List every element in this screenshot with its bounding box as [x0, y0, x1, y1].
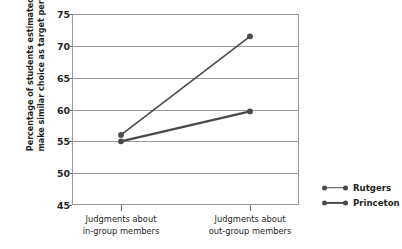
chart-legend: Rutgers Princeton: [322, 180, 400, 210]
x-tick-label-in-group-line-2: in-group members: [56, 226, 186, 238]
x-tick-label-in-group: Judgments about in-group members: [56, 214, 186, 237]
series-layer: [0, 0, 402, 249]
data-point-princeton-1: [247, 109, 253, 115]
x-tick-label-in-group-line-1: Judgments about: [56, 214, 186, 226]
x-tick-label-out-group: Judgments about out-group members: [185, 214, 315, 237]
legend-item-princeton[interactable]: Princeton: [322, 195, 400, 210]
legend-label-princeton: Princeton: [353, 198, 400, 208]
data-point-princeton-0: [118, 138, 124, 144]
x-tick-label-out-group-line-2: out-group members: [185, 226, 315, 238]
x-tick-label-out-group-line-1: Judgments about: [185, 214, 315, 226]
series-line-rutgers: [121, 36, 250, 135]
series-line-princeton: [121, 111, 250, 141]
data-point-rutgers-1: [247, 33, 253, 39]
legend-label-rutgers: Rutgers: [353, 183, 391, 193]
legend-item-rutgers[interactable]: Rutgers: [322, 180, 400, 195]
x-tick-mark-out-group: [250, 205, 251, 211]
legend-swatch-princeton: [322, 198, 348, 208]
data-point-rutgers-0: [118, 132, 124, 138]
legend-swatch-rutgers: [322, 183, 348, 193]
line-chart-figure: Percentage of students estimated to make…: [0, 0, 402, 249]
x-tick-mark-in-group: [121, 205, 122, 211]
